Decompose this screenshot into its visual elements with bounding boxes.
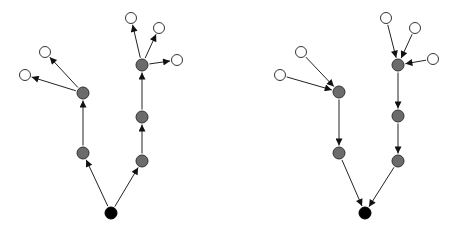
- leaf-node: [126, 13, 137, 24]
- edge-arrow: [86, 160, 108, 206]
- edge-arrow: [115, 167, 138, 206]
- leaf-node: [275, 70, 286, 81]
- edge-arrow: [401, 34, 412, 58]
- internal-node: [136, 59, 148, 71]
- internal-node: [333, 86, 345, 98]
- internal-node: [392, 59, 404, 71]
- internal-node: [392, 110, 404, 122]
- leaf-node: [20, 70, 31, 81]
- internal-node: [333, 147, 345, 159]
- graph-outgoing-tree: [20, 13, 183, 220]
- internal-node: [77, 147, 89, 159]
- leaf-node: [40, 47, 51, 58]
- diagram-canvas: [0, 0, 458, 227]
- leaf-node: [428, 54, 439, 65]
- edge-arrow: [287, 77, 332, 90]
- internal-node: [77, 87, 89, 99]
- internal-node: [392, 155, 404, 167]
- leaf-node: [381, 13, 392, 24]
- root-node: [105, 207, 117, 219]
- edge-arrow: [32, 77, 76, 91]
- edge-arrow: [306, 57, 334, 86]
- edge-arrow: [342, 160, 362, 206]
- leaf-node: [410, 23, 421, 34]
- edge-arrow: [133, 25, 141, 58]
- edge-arrow: [149, 61, 170, 64]
- internal-node: [136, 155, 148, 167]
- leaf-node: [154, 23, 165, 34]
- leaf-node: [296, 47, 307, 58]
- edge-arrow: [388, 25, 396, 58]
- edge-arrow: [405, 60, 426, 64]
- edge-arrow: [145, 34, 156, 58]
- internal-node: [136, 111, 148, 123]
- edge-arrow: [50, 57, 78, 87]
- leaf-node: [172, 55, 183, 66]
- root-node: [359, 207, 371, 219]
- edge-arrow: [369, 167, 394, 206]
- graph-incoming-tree: [275, 13, 439, 220]
